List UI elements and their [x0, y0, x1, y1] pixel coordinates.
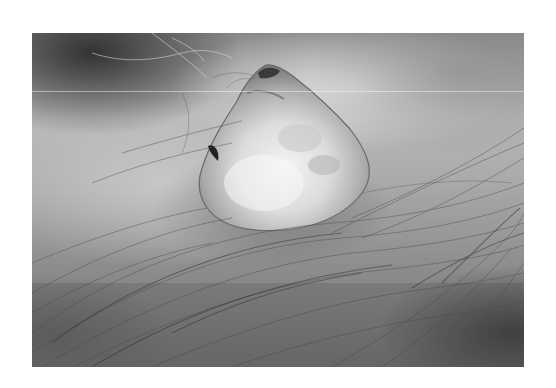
scan-artifact-line	[32, 91, 524, 92]
photo-content	[32, 33, 524, 367]
clinical-photo	[32, 33, 524, 367]
upper-hair-strands	[92, 33, 232, 78]
